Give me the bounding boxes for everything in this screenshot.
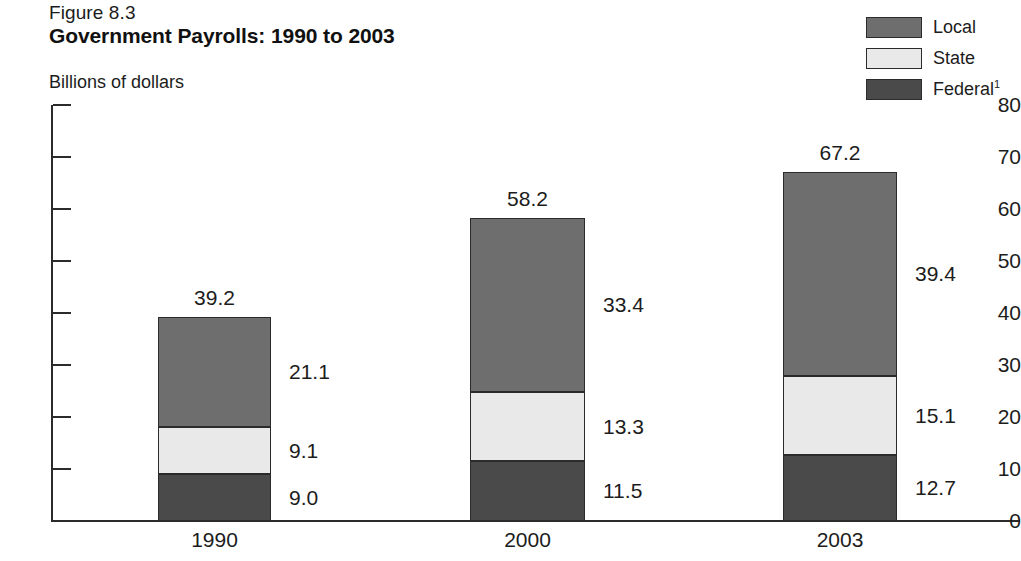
y-tick-mark-80 (53, 104, 71, 106)
bar-total-1990: 39.2 (194, 286, 235, 310)
y-tick-mark-60 (53, 208, 71, 210)
segment-value-2000-local: 33.4 (603, 293, 644, 317)
bar-segment-1990-state[interactable] (158, 427, 271, 474)
bar-segment-2000-federal[interactable] (470, 461, 585, 521)
segment-value-1990-federal: 9.0 (289, 486, 318, 510)
bar-segment-1990-federal[interactable] (158, 474, 271, 521)
y-tick-label-20: 20 (977, 405, 1021, 429)
y-tick-label-80: 80 (977, 93, 1021, 117)
y-tick-label-40: 40 (977, 301, 1021, 325)
bar-segment-2003-federal[interactable] (783, 455, 897, 521)
y-tick-label-60: 60 (977, 197, 1021, 221)
x-axis-label-1990: 1990 (191, 528, 238, 552)
y-tick-mark-70 (53, 156, 71, 158)
x-axis-label-2000: 2000 (504, 528, 551, 552)
y-tick-mark-40 (53, 312, 71, 314)
segment-value-2000-state: 13.3 (603, 415, 644, 439)
y-tick-label-50: 50 (977, 249, 1021, 273)
bar-total-2003: 67.2 (820, 141, 861, 165)
bar-segment-2000-state[interactable] (470, 392, 585, 461)
bar-segment-2000-local[interactable] (470, 218, 585, 392)
y-tick-mark-20 (53, 416, 71, 418)
plot-area: 80706050403020100 9.09.121.139.211.513.3… (0, 0, 1021, 561)
y-tick-mark-0 (53, 520, 71, 522)
y-tick-mark-10 (53, 468, 71, 470)
bar-segment-2003-local[interactable] (783, 172, 897, 377)
segment-value-1990-local: 21.1 (289, 360, 330, 384)
y-tick-label-30: 30 (977, 353, 1021, 377)
y-tick-label-0: 0 (977, 509, 1021, 533)
y-tick-label-70: 70 (977, 145, 1021, 169)
y-tick-mark-50 (53, 260, 71, 262)
segment-value-2003-state: 15.1 (915, 404, 956, 428)
segment-value-2000-federal: 11.5 (603, 479, 642, 503)
segment-value-2003-local: 39.4 (915, 262, 956, 286)
segment-value-2003-federal: 12.7 (915, 476, 956, 500)
bar-segment-2003-state[interactable] (783, 376, 897, 455)
bar-segment-1990-local[interactable] (158, 317, 271, 427)
y-tick-mark-30 (53, 364, 71, 366)
segment-value-1990-state: 9.1 (289, 439, 318, 463)
x-axis-label-2003: 2003 (817, 528, 864, 552)
y-tick-label-10: 10 (977, 457, 1021, 481)
bar-total-2000: 58.2 (507, 187, 548, 211)
